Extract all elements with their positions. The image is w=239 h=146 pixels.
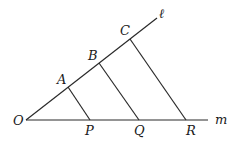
label-r: R: [185, 123, 196, 138]
label-c: C: [120, 23, 130, 38]
label-p: P: [84, 123, 94, 138]
geometry-diagram: O A B C P Q R ℓ m: [0, 0, 239, 146]
label-b: B: [87, 48, 98, 63]
diagram-canvas: O A B C P Q R ℓ m: [0, 0, 239, 146]
label-a: A: [56, 72, 66, 87]
label-line-l: ℓ: [159, 6, 165, 21]
label-q: Q: [134, 123, 145, 138]
segment-ap: [68, 87, 90, 120]
segment-cr: [130, 39, 186, 120]
line-l: [26, 18, 157, 120]
label-line-m: m: [215, 112, 227, 127]
segment-bq: [99, 63, 139, 120]
label-o: O: [13, 113, 24, 128]
